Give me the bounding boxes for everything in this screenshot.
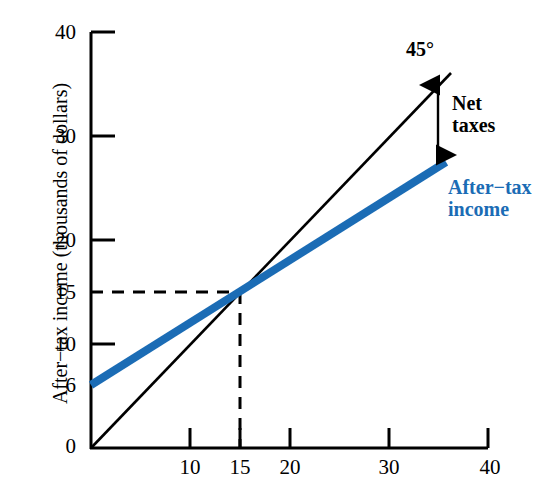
chart-plot-area: [0, 0, 542, 493]
chart-figure: After−tax income (thousands of dollars): [0, 0, 542, 493]
net-taxes-label: Net taxes: [452, 92, 495, 137]
y-tick-label-40: 40: [34, 22, 76, 43]
y-tick-label-15: 15: [34, 282, 76, 303]
after-tax-income-label-line1: After−tax: [448, 176, 532, 198]
y-tick-label-6: 6: [34, 375, 76, 396]
y-tick-label-0: 0: [34, 436, 76, 457]
y-tick-label-10: 10: [34, 334, 76, 355]
y-tick-label-30: 30: [34, 126, 76, 147]
net-taxes-label-line2: taxes: [452, 114, 495, 136]
after-tax-income-label: After−tax income: [448, 176, 532, 221]
series-after-tax-income-line: [91, 162, 446, 385]
angle-45-label: 45°: [406, 38, 434, 60]
x-tick-label-40: 40: [470, 457, 510, 478]
x-tick-label-20: 20: [270, 457, 310, 478]
y-tick-label-20: 20: [34, 230, 76, 251]
y-axis-ticks: [91, 32, 115, 344]
after-tax-income-label-line2: income: [448, 198, 532, 220]
x-tick-label-15: 15: [220, 457, 260, 478]
net-taxes-label-line1: Net: [452, 92, 495, 114]
x-axis-ticks: [190, 428, 488, 448]
series-45-degree-line: [91, 73, 451, 448]
x-tick-label-10: 10: [170, 457, 210, 478]
x-tick-label-30: 30: [369, 457, 409, 478]
